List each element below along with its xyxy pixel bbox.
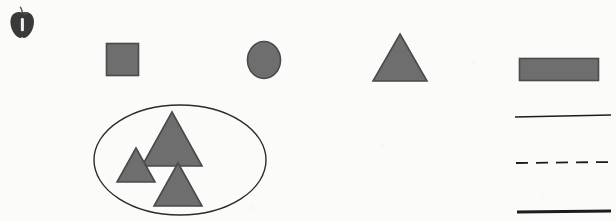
shape-rectangle [520,59,599,81]
shape-triangle [373,34,427,81]
line-dashed [516,162,611,163]
line-solid-thin [515,115,611,117]
worksheet-canvas [0,0,616,221]
shape-square [107,44,139,76]
triangle-group [94,105,266,215]
shape-circle [248,42,281,79]
group-triangle-large [142,112,202,166]
shapes-illustration [0,0,616,221]
apple-icon [10,7,34,38]
line-solid-thick [517,211,611,212]
group-triangle-medium [154,163,202,206]
apple-highlight-icon [21,18,24,31]
